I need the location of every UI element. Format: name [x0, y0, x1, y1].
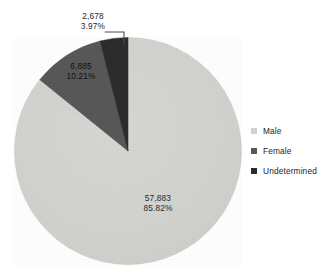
leader-line-undetermined — [104, 30, 130, 46]
slice-label-male: 57,883 85.82% — [122, 193, 194, 213]
legend: Male Female Undetermined — [251, 121, 333, 181]
legend-item-undetermined[interactable]: Undetermined — [251, 161, 333, 181]
legend-item-female[interactable]: Female — [251, 141, 333, 161]
legend-label-female: Female — [263, 146, 292, 156]
legend-label-undetermined: Undetermined — [263, 166, 317, 176]
legend-label-male: Male — [263, 126, 282, 136]
slice-value-male: 57,883 — [122, 193, 194, 203]
slice-label-female: 6,885 10.21% — [48, 61, 114, 81]
slice-percent-male: 85.82% — [122, 203, 194, 213]
legend-swatch-male — [251, 128, 257, 134]
slice-value-female: 6,885 — [48, 61, 114, 71]
slice-label-undetermined: 2,678 3.97% — [60, 11, 126, 31]
pie-chart: 2,678 3.97% 6,885 10.21% 57,883 85.82% M… — [0, 0, 333, 279]
legend-swatch-undetermined — [251, 168, 257, 174]
slice-percent-female: 10.21% — [48, 71, 114, 81]
slice-value-undetermined: 2,678 — [60, 11, 126, 21]
legend-swatch-female — [251, 148, 257, 154]
legend-item-male[interactable]: Male — [251, 121, 333, 141]
slice-percent-undetermined: 3.97% — [60, 21, 126, 31]
